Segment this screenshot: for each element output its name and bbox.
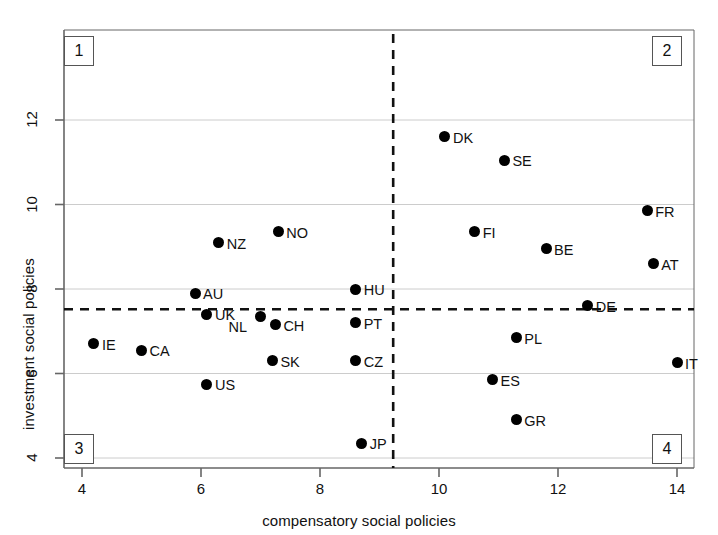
x-axis-title: compensatory social policies <box>0 512 718 529</box>
data-point <box>350 284 361 295</box>
data-point-label: FI <box>483 226 496 241</box>
y-axis-title: investment social policies <box>20 258 37 430</box>
data-point <box>511 332 522 343</box>
data-point-label: DE <box>596 300 616 315</box>
data-point-label: CZ <box>364 355 383 370</box>
data-point <box>190 288 201 299</box>
data-point-label: PL <box>524 332 542 347</box>
data-point-label: HU <box>364 283 385 298</box>
data-point-label: PT <box>364 317 383 332</box>
data-point-label: GR <box>524 414 546 429</box>
data-point <box>541 243 552 254</box>
data-point-label: AT <box>661 258 678 273</box>
quadrant-label-3: 3 <box>64 434 94 464</box>
y-tick-label: 12 <box>23 103 40 137</box>
x-tick-label: 10 <box>419 480 459 497</box>
scatter-plot-figure: IECAAUUKUSNZNLSKCHNOCZPTHUJPDKFIESSEGRPL… <box>0 0 718 535</box>
data-point <box>356 438 367 449</box>
data-point <box>255 311 266 322</box>
data-point-label: NL <box>229 320 248 335</box>
data-point <box>672 357 683 368</box>
data-point-label: ES <box>501 374 520 389</box>
data-point-label: NO <box>286 226 308 241</box>
data-point-label: BE <box>554 243 573 258</box>
quadrant-label-2: 2 <box>652 36 682 66</box>
data-point <box>201 379 212 390</box>
data-point-label: SE <box>512 154 531 169</box>
x-tick-label: 14 <box>657 480 697 497</box>
data-point-label: IE <box>102 338 116 353</box>
data-point-label: NZ <box>227 237 246 252</box>
x-tick-label: 12 <box>538 480 578 497</box>
quadrant-label-4: 4 <box>652 434 682 464</box>
data-point <box>136 345 147 356</box>
data-point-label: AU <box>203 287 223 302</box>
data-point-label: CH <box>283 319 304 334</box>
data-point <box>648 258 659 269</box>
x-tick-label: 4 <box>62 480 102 497</box>
y-tick-label: 10 <box>23 187 40 221</box>
x-tick-label: 8 <box>300 480 340 497</box>
y-tick-label: 4 <box>23 441 40 475</box>
data-point-label: DK <box>453 131 473 146</box>
data-point-label: JP <box>370 437 387 452</box>
data-point-label: CA <box>150 344 170 359</box>
data-point-label: FR <box>655 205 674 220</box>
plot-canvas <box>0 0 718 535</box>
data-point-label: SK <box>280 355 299 370</box>
x-tick-label: 6 <box>181 480 221 497</box>
data-point-label: IT <box>685 357 698 372</box>
data-point <box>499 155 510 166</box>
quadrant-label-1: 1 <box>64 36 94 66</box>
data-point-label: US <box>215 378 235 393</box>
